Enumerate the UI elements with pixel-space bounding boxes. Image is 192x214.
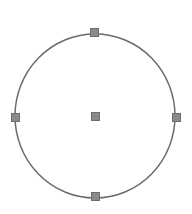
move-handle-center[interactable] (91, 112, 100, 121)
resize-handle-top[interactable] (90, 28, 99, 37)
resize-handle-left[interactable] (11, 113, 20, 122)
resize-handle-right[interactable] (172, 113, 181, 122)
drawing-canvas[interactable] (0, 0, 192, 214)
resize-handle-bottom[interactable] (91, 192, 100, 201)
